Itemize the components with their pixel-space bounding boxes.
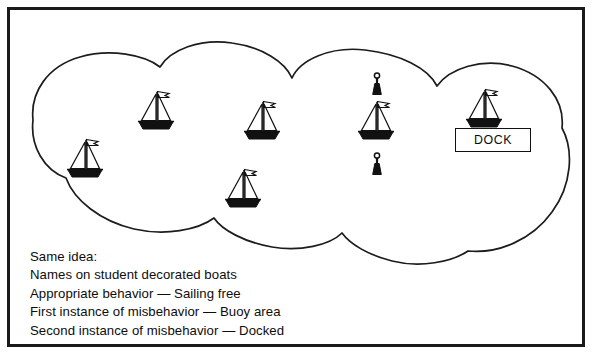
water-area-cloud-outline	[33, 42, 570, 264]
dock-label-text: DOCK	[474, 133, 512, 147]
dock-label: DOCK	[455, 128, 531, 152]
legend-line-first-instance: First instance of misbehavior — Buoy are…	[30, 303, 430, 321]
legend-text-block: Same idea: Names on student decorated bo…	[30, 248, 430, 340]
legend-line-appropriate: Appropriate behavior — Sailing free	[30, 285, 430, 303]
legend-line-same-idea: Same idea:	[30, 248, 430, 266]
screenshot-root: DOCK Same idea: Names on student decorat…	[0, 0, 598, 358]
legend-line-second-instance: Second instance of misbehavior — Docked	[30, 322, 430, 340]
legend-line-names: Names on student decorated boats	[30, 266, 430, 284]
